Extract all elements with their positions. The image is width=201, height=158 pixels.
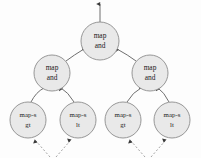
node-leaf-2-label-line2: lt: [76, 121, 80, 128]
node-root-label-line2: and: [95, 41, 106, 50]
node-mid-right-label-line2: and: [145, 73, 156, 82]
edge-midleft-to-root: [66, 49, 84, 61]
node-leaf-1-label-line1: map-s: [20, 111, 37, 118]
node-root-label-line1: map: [94, 31, 107, 40]
edge-input-to-leaf2: [56, 141, 70, 157]
node-mid-left[interactable]: map and: [34, 55, 70, 91]
node-leaf-3-label-line2: gt: [120, 121, 125, 128]
edge-leaf3-to-midright: [127, 88, 141, 102]
node-mid-left-label-line1: map: [46, 63, 59, 72]
node-leaf-3-label-line1: map-s: [115, 111, 132, 118]
node-mid-left-label-line2: and: [47, 73, 58, 82]
diagram-canvas: map and map and map and map-s gt map-s l…: [0, 0, 201, 158]
node-leaf-4-label-line2: lt: [170, 121, 174, 128]
node-leaf-4[interactable]: map-s lt: [154, 102, 190, 138]
edge-input-to-leaf4: [151, 141, 165, 157]
node-leaf-1[interactable]: map-s gt: [10, 102, 46, 138]
edge-midright-to-root: [117, 49, 136, 61]
node-mid-right-label-line1: map: [144, 63, 157, 72]
node-leaf-1-label-line2: gt: [25, 121, 30, 128]
edge-input-to-leaf1: [36, 141, 50, 157]
node-leaf-3[interactable]: map-s gt: [105, 102, 141, 138]
node-root[interactable]: map and: [81, 22, 119, 60]
node-leaf-2[interactable]: map-s lt: [60, 102, 96, 138]
node-mid-right[interactable]: map and: [132, 55, 168, 91]
edge-leaf2-to-midleft: [61, 88, 74, 102]
tree-graph: map and map and map and map-s gt map-s l…: [0, 0, 201, 158]
node-leaf-4-label-line1: map-s: [164, 111, 181, 118]
node-leaf-2-label-line1: map-s: [70, 111, 87, 118]
edge-leaf1-to-midleft: [31, 88, 44, 102]
edge-leaf4-to-midright: [158, 88, 169, 102]
edge-input-to-leaf3: [131, 141, 145, 157]
